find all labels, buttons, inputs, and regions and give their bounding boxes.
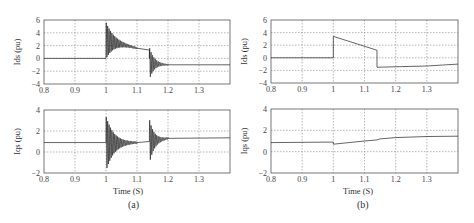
xlabel-a: Time (S) [113, 186, 143, 196]
caption-a: (a) [128, 199, 139, 210]
xlabel-b: Time (S) [343, 186, 373, 196]
caption-b: (b) [357, 199, 369, 210]
